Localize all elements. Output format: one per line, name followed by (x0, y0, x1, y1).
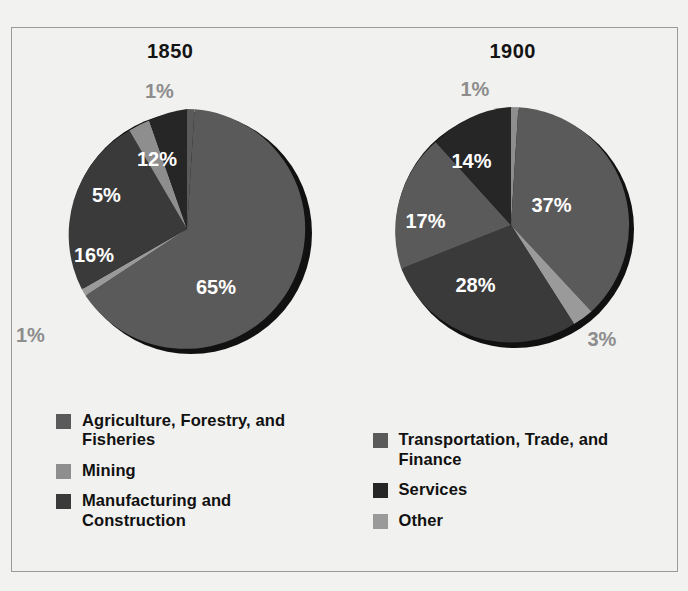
pie-label-1850-2: 5% (92, 184, 121, 207)
pie-label-1900-5: 37% (532, 194, 572, 217)
pie-label-1900-3: 28% (456, 274, 496, 297)
legend-item-services[interactable]: Services (373, 480, 653, 499)
figure-frame: 1850 1% 12% 5% 16% 1% (11, 27, 678, 572)
legend-item-other[interactable]: Other (373, 511, 653, 530)
legend-label-transportation: Transportation, Trade, and Finance (399, 430, 653, 469)
legend-label-mining: Mining (82, 461, 136, 480)
legend-item-mining[interactable]: Mining (56, 461, 326, 480)
legend-left: Agriculture, Forestry, and Fisheries Min… (56, 411, 326, 541)
pie-label-1900-0: 1% (461, 78, 490, 101)
pie-label-1850-1: 12% (137, 148, 177, 171)
legend-label-services: Services (399, 480, 468, 499)
chart-panel-1850: 1850 1% 12% 5% 16% 1% (12, 28, 345, 571)
legend-label-other: Other (399, 511, 444, 530)
legend-right: Transportation, Trade, and Finance Servi… (373, 430, 653, 541)
legend-swatch-manufacturing-icon (56, 494, 71, 509)
pie-chart-1900: 1% 14% 17% 28% 3% 37% (392, 106, 630, 344)
legend-swatch-agriculture-icon (56, 414, 71, 429)
pie-label-1900-4: 3% (588, 328, 617, 351)
legend-swatch-mining-icon (56, 464, 71, 479)
pie-slices-1850 (66, 108, 308, 350)
chart-title-1850: 1850 (4, 40, 337, 63)
pie-label-1850-3: 16% (74, 244, 114, 267)
legend-item-manufacturing[interactable]: Manufacturing and Construction (56, 491, 326, 530)
legend-swatch-other-icon (373, 514, 388, 529)
chart-title-1900: 1900 (347, 40, 680, 63)
pie-label-1850-4: 1% (16, 324, 45, 347)
legend-swatch-services-icon (373, 483, 388, 498)
pie-label-1850-5: 65% (196, 276, 236, 299)
pie-chart-1850: 1% 12% 5% 16% 1% 65% (66, 108, 308, 350)
legend-item-agriculture[interactable]: Agriculture, Forestry, and Fisheries (56, 411, 326, 450)
chart-panel-1900: 1900 1% 14% 17% 28% 3% (345, 28, 678, 571)
pie-label-1850-0: 1% (145, 80, 174, 103)
legend-label-agriculture: Agriculture, Forestry, and Fisheries (82, 411, 326, 450)
legend-label-manufacturing: Manufacturing and Construction (82, 491, 326, 530)
pie-label-1900-2: 17% (406, 210, 446, 233)
legend-item-transportation[interactable]: Transportation, Trade, and Finance (373, 430, 653, 469)
pie-label-1900-1: 14% (452, 150, 492, 173)
legend-swatch-transportation-icon (373, 433, 388, 448)
